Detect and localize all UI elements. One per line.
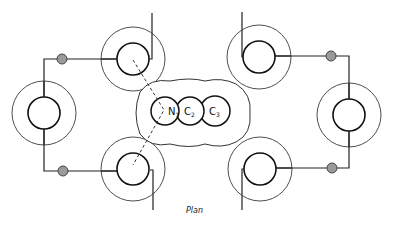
hatched-dot-icon	[57, 54, 67, 64]
plan-diagram: N1 C2 C3 Plan	[0, 0, 393, 230]
hatched-dot-icon	[326, 51, 336, 61]
ring-bottom-right	[228, 137, 292, 201]
ring-top-right	[227, 25, 291, 89]
hatched-dot-icon	[58, 166, 68, 176]
hatched-dot-icon	[327, 163, 337, 173]
figure-caption: Plan	[186, 206, 203, 215]
ring-bottom-left	[101, 137, 165, 201]
